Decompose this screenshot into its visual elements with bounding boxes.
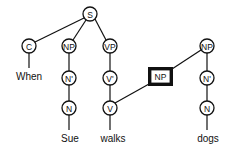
node-n-bar-object: N' — [200, 71, 214, 85]
node-n-object: N — [200, 101, 214, 115]
node-c: C — [22, 39, 36, 53]
syntax-tree-diagram: S C NP VP N' V' N V NP NP N' — [0, 0, 235, 151]
node-v: V — [103, 101, 117, 115]
svg-text:N: N — [204, 104, 210, 114]
node-v-bar: V' — [103, 71, 117, 85]
svg-text:N': N' — [65, 74, 73, 84]
word-dogs: dogs — [197, 133, 219, 144]
node-s: S — [83, 7, 97, 21]
node-np-boxed: NP — [148, 67, 173, 86]
node-n-subject: N — [62, 101, 76, 115]
word-walks: walks — [99, 133, 125, 144]
svg-text:N': N' — [203, 74, 211, 84]
node-vp: VP — [103, 39, 117, 53]
edge-s-vp — [95, 19, 106, 40]
node-np-subject: NP — [62, 39, 76, 53]
svg-text:V: V — [107, 104, 113, 114]
svg-text:N: N — [66, 104, 72, 114]
tree-edges — [29, 18, 207, 130]
svg-text:NP: NP — [155, 72, 167, 82]
word-sue: Sue — [61, 133, 79, 144]
svg-text:NP: NP — [201, 42, 213, 52]
svg-text:VP: VP — [104, 42, 116, 52]
edge-npbox-np — [172, 50, 201, 69]
svg-text:S: S — [87, 10, 93, 20]
svg-text:V': V' — [106, 74, 114, 84]
svg-text:NP: NP — [63, 42, 75, 52]
word-when: When — [16, 71, 42, 82]
svg-text:C: C — [26, 42, 32, 52]
edge-v-npbox — [115, 84, 149, 103]
node-n-bar-subject: N' — [62, 71, 76, 85]
node-np-object: NP — [200, 39, 214, 53]
edge-s-c — [35, 18, 84, 42]
